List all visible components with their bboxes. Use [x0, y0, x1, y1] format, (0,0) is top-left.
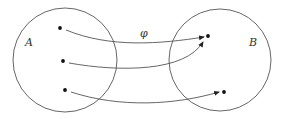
domain-points	[58, 26, 67, 92]
domain-point	[61, 59, 65, 63]
mapping-diagram: A B φ	[0, 0, 285, 119]
mapping-phi-label: φ	[140, 27, 148, 40]
mapping-arrows	[66, 30, 219, 103]
set-b-circle	[169, 9, 271, 111]
domain-point	[58, 26, 62, 30]
codomain-points	[206, 34, 226, 94]
set-a-label: A	[24, 36, 33, 49]
mapping-arrow	[69, 42, 203, 68]
set-b-label: B	[248, 36, 257, 49]
codomain-point	[222, 90, 226, 94]
domain-point	[63, 88, 67, 92]
mapping-arrow	[66, 30, 204, 43]
set-a-circle	[13, 8, 117, 112]
codomain-point	[206, 34, 210, 38]
diagram-canvas: A B φ	[0, 0, 285, 119]
mapping-arrow	[71, 92, 219, 103]
